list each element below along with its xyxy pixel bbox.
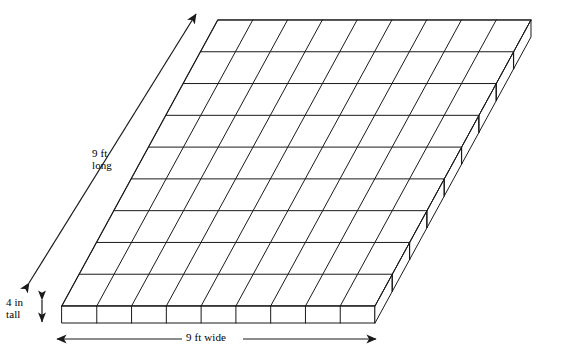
height-label: 4 in tall (6, 297, 23, 320)
depth-label-line2: long (92, 160, 112, 172)
depth-label-line1: 9 ft (92, 148, 112, 160)
height-label-line2: tall (6, 309, 23, 321)
slab-figure (0, 0, 561, 355)
slab-front-face (62, 306, 375, 323)
height-label-line1: 4 in (6, 297, 23, 309)
slab-solid (62, 20, 531, 323)
depth-label: 9 ft long (92, 148, 112, 171)
width-label: 9 ft wide (186, 332, 226, 344)
